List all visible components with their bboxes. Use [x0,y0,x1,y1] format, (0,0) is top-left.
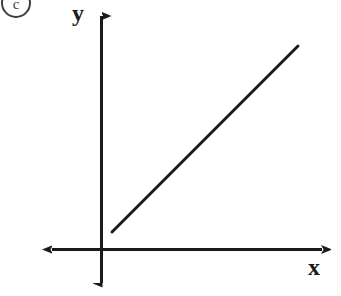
plotted-line-segment [112,46,298,232]
x-axis-label: x [308,255,320,279]
graph-figure: c y x [0,0,341,296]
y-axis-label: y [72,1,84,25]
cartesian-graph [0,0,341,296]
